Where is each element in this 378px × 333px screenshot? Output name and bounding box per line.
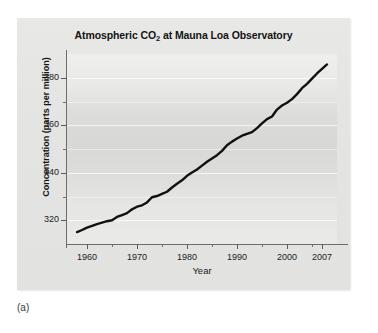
x-axis-minor-tick (162, 244, 163, 247)
x-axis-minor-tick (112, 244, 113, 247)
chart-title-suffix: at Mauna Loa Observatory (160, 29, 292, 41)
x-axis-tick (137, 244, 138, 249)
figure-caption: (a) (17, 302, 29, 313)
co2-concentration-line (67, 54, 337, 244)
x-axis-tick (87, 244, 88, 249)
plot-area: 320340360380 196019701980199020002007 (67, 54, 337, 244)
x-axis-tick-label: 2007 (302, 253, 342, 262)
y-axis-tick-label: 340 (26, 168, 59, 177)
x-axis-tick (322, 244, 323, 249)
y-axis-tick-label: 380 (26, 73, 59, 82)
x-axis-minor-tick (262, 244, 263, 247)
y-axis-tick-label: 320 (26, 215, 59, 224)
x-axis-spine (66, 244, 348, 245)
x-axis-tick-label: 1960 (67, 253, 107, 262)
x-axis-tick (287, 244, 288, 249)
x-axis-tick (187, 244, 188, 249)
x-axis-tick-label: 2000 (267, 253, 307, 262)
x-axis-tick-label: 1970 (117, 253, 157, 262)
x-axis-title: Year (67, 265, 337, 276)
figure-panel: Atmospheric CO2 at Mauna Loa Observatory… (17, 18, 350, 290)
y-axis-tick-label: 360 (26, 120, 59, 129)
x-axis-minor-tick (212, 244, 213, 247)
chart-title-prefix: Atmospheric CO (75, 29, 156, 41)
x-axis-minor-tick (312, 244, 313, 247)
chart-title-subscript: 2 (156, 34, 160, 43)
x-axis-tick-label: 1990 (217, 253, 257, 262)
x-axis-tick-label: 1980 (167, 253, 207, 262)
x-axis-tick (237, 244, 238, 249)
chart-title: Atmospheric CO2 at Mauna Loa Observatory (17, 29, 350, 41)
